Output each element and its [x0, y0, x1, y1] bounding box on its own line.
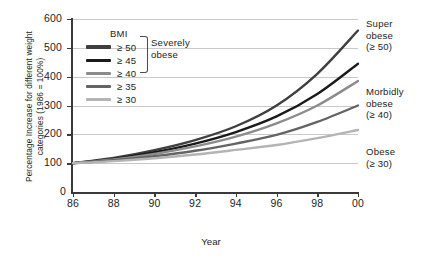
- legend-item[interactable]: ≥ 40: [86, 68, 136, 78]
- legend-item[interactable]: ≥ 35: [86, 82, 136, 92]
- legend-swatch: [86, 72, 111, 75]
- series-lines: [0, 0, 422, 259]
- legend-item-label: ≥ 30: [117, 94, 136, 105]
- chart-container: Percentage Increase for different weight…: [0, 0, 422, 259]
- legend-item-label: ≥ 50: [117, 42, 136, 53]
- legend-item-label: ≥ 40: [117, 68, 136, 79]
- severely-obese-bracket: [140, 36, 148, 73]
- legend: BMI ≥ 50≥ 45≥ 40≥ 35≥ 30: [86, 28, 136, 108]
- annotation-morbidly-obese: Morbidly obese (≥ 40): [366, 86, 404, 121]
- legend-item-label: ≥ 45: [117, 55, 136, 66]
- legend-swatch: [86, 45, 111, 48]
- x-axis-title: Year: [0, 236, 422, 247]
- legend-swatch: [86, 59, 111, 62]
- legend-item[interactable]: ≥ 30: [86, 95, 136, 105]
- legend-item[interactable]: ≥ 45: [86, 55, 136, 65]
- legend-title: BMI: [110, 28, 136, 39]
- legend-item-label: ≥ 35: [117, 81, 136, 92]
- annotation-obese: Obese (≥ 30): [366, 146, 395, 169]
- legend-swatch: [86, 98, 111, 101]
- severely-obese-label: Severely obese: [151, 37, 190, 60]
- legend-item[interactable]: ≥ 50: [86, 42, 136, 52]
- annotation-super-obese: Super obese (≥ 50): [366, 18, 393, 53]
- legend-swatch: [86, 85, 111, 88]
